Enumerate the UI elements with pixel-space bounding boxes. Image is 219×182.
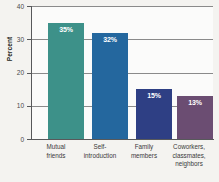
y-axis-title: Percent xyxy=(6,24,18,74)
bar-family-members[interactable]: 15% xyxy=(136,89,172,139)
category-line: classmates, xyxy=(160,152,218,161)
category-line: Coworkers, xyxy=(160,143,218,152)
y-tick-label-0: 0 xyxy=(8,136,24,143)
y-axis-line xyxy=(31,6,32,140)
bar-value-label: 32% xyxy=(92,36,128,43)
y-tick-mark-40 xyxy=(27,6,31,7)
y-tick-label-40: 40 xyxy=(8,3,24,10)
x-axis-line xyxy=(31,139,214,140)
y-tick-mark-30 xyxy=(27,39,31,40)
bar-mutual-friends[interactable]: 35% xyxy=(48,23,84,139)
bar-value-label: 15% xyxy=(136,92,172,99)
y-tick-mark-0 xyxy=(27,139,31,140)
y-tick-label-30: 30 xyxy=(8,36,24,43)
category-line: neighbors xyxy=(160,160,218,169)
y-tick-mark-20 xyxy=(27,73,31,74)
plot-area: 35% 32% 15% 13% xyxy=(31,6,213,139)
bar-self-introduction[interactable]: 32% xyxy=(92,33,128,139)
bar-coworkers-classmates-neighbors[interactable]: 13% xyxy=(177,96,213,139)
y-tick-label-20: 20 xyxy=(8,69,24,76)
y-tick-mark-10 xyxy=(27,106,31,107)
bar-value-label: 13% xyxy=(177,99,213,106)
bar-value-label: 35% xyxy=(48,26,84,33)
gridline-40 xyxy=(31,6,213,7)
x-category-label-coworkers-classmates-neighbors: Coworkers, classmates, neighbors xyxy=(160,143,218,169)
y-tick-label-10: 10 xyxy=(8,102,24,109)
bar-chart: Percent 35% 32% 15% 13% 40 30 20 10 0 Mu… xyxy=(0,0,219,182)
